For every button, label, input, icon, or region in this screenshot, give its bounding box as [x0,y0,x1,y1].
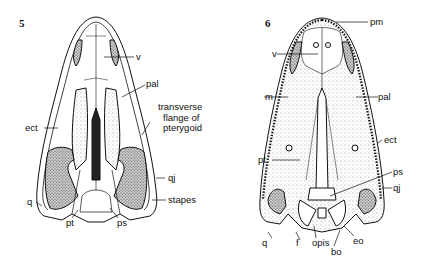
label-ect: ect [25,123,38,133]
label-ps: ps [117,218,127,228]
label-pt: pt [66,218,74,228]
label-qj: qj [168,173,175,183]
label-bo: bo [331,247,342,257]
label-v: v [136,52,141,62]
label-eo: eo [353,236,364,246]
figure-number-5: 5 [19,17,25,29]
label-transverse-flange-of-pterygoid: transverse flange of pterygoid [158,102,202,134]
label-pal: pal [146,79,159,89]
label-f: f [296,238,299,248]
label-pal: pal [378,92,391,102]
figure-number-6: 6 [265,17,271,29]
label-opis: opis [312,238,329,248]
label-q: q [262,238,267,248]
skull-6 [260,18,384,232]
label-line: transverse [158,102,202,113]
figure-drawings [0,0,422,262]
label-pt: pt [258,155,266,165]
label-qj: qj [393,183,400,193]
label-stapes: stapes [168,195,196,205]
label-line: pterygoid [158,123,202,134]
label-ps: ps [393,167,403,177]
label-pm: pm [370,17,383,27]
label-ect: ect [384,135,397,145]
label-q: q [27,197,32,207]
label-m: m [265,92,273,102]
label-v: v [272,49,277,59]
skull-5 [37,17,157,222]
